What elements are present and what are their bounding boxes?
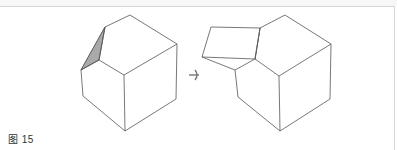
right-arrow-icon xyxy=(189,70,199,80)
right-cube-unfolded-flap xyxy=(202,15,331,131)
left-solid-outline xyxy=(81,15,177,131)
unfolded-flap xyxy=(202,27,260,59)
figure-canvas xyxy=(0,0,397,150)
left-cube-cut-corner xyxy=(81,15,177,131)
figure-caption: 图 15 xyxy=(8,131,34,146)
flap-edge xyxy=(202,57,235,70)
